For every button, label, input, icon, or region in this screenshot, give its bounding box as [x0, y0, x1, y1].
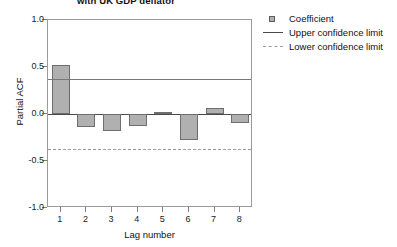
x-tick-mark: [85, 207, 86, 212]
y-tick-label: -0.5: [14, 156, 44, 165]
x-tick-label: 3: [101, 214, 121, 224]
plot-area: [48, 20, 251, 206]
x-tick-mark: [214, 207, 215, 212]
bar: [180, 114, 198, 140]
bar: [154, 112, 172, 114]
lower-confidence-limit-line: [48, 149, 251, 150]
x-tick-mark: [111, 207, 112, 212]
y-tick-label: 0.5: [14, 62, 44, 71]
upper-confidence-limit-line: [48, 79, 251, 80]
x-tick-label: 4: [127, 214, 147, 224]
legend-label: Coefficient: [289, 13, 334, 24]
y-tick-label: 0.0: [14, 109, 44, 118]
chart-title: with UK GDP deflator: [0, 0, 252, 6]
plot-frame: [47, 19, 252, 207]
legend-item-coefficient: Coefficient: [262, 12, 397, 25]
legend-item-lower-confidence-limit: Lower confidence limit: [262, 40, 397, 53]
x-tick-label: 6: [178, 214, 198, 224]
chart-legend: Coefficient Upper confidence limit Lower…: [262, 12, 397, 54]
y-tick-label: 1.0: [14, 15, 44, 24]
legend-label: Lower confidence limit: [289, 41, 383, 52]
legend-item-upper-confidence-limit: Upper confidence limit: [262, 26, 397, 39]
x-tick-mark: [137, 207, 138, 212]
x-tick-label: 8: [229, 214, 249, 224]
partial-acf-chart: with UK GDP deflator Partial ACF 1.00.50…: [0, 0, 397, 247]
y-tick-label: -1.0: [14, 203, 44, 212]
x-tick-label: 5: [152, 214, 172, 224]
x-tick-label: 1: [50, 214, 70, 224]
bar: [103, 114, 121, 131]
bar: [231, 114, 249, 123]
bar: [77, 114, 95, 127]
legend-label: Upper confidence limit: [289, 27, 383, 38]
bar: [206, 108, 224, 114]
x-tick-mark: [188, 207, 189, 212]
bar: [129, 114, 147, 126]
dashed-line-icon: [262, 40, 284, 53]
x-tick-label: 2: [75, 214, 95, 224]
x-tick-label: 7: [204, 214, 224, 224]
bar: [52, 65, 70, 114]
x-tick-mark: [239, 207, 240, 212]
x-tick-mark: [60, 207, 61, 212]
x-axis-label: Lag number: [47, 229, 252, 240]
x-tick-mark: [162, 207, 163, 212]
solid-line-icon: [262, 26, 284, 39]
coefficient-swatch-icon: [262, 12, 284, 25]
